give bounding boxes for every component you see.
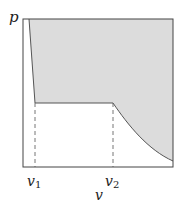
v1-label: v1 bbox=[27, 173, 41, 190]
pv-diagram: p v1 v2 v bbox=[0, 0, 184, 207]
p-axis-label: p bbox=[9, 8, 19, 26]
diagram-canvas: p v1 v2 v bbox=[0, 0, 184, 207]
v-axis-label: v bbox=[95, 187, 103, 203]
shaded-region bbox=[29, 19, 173, 161]
v2-label: v2 bbox=[105, 173, 119, 190]
